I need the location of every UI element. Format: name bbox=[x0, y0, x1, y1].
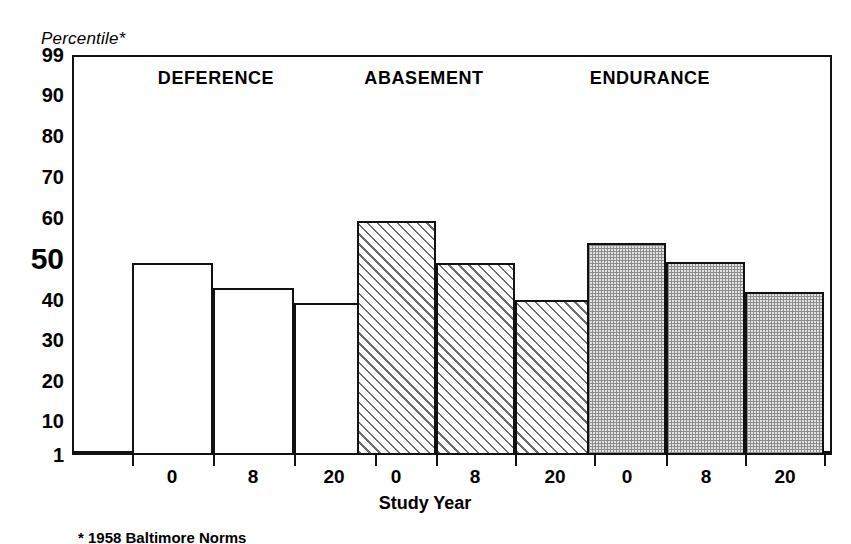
group-title-deference: DEFERENCE bbox=[158, 68, 274, 89]
x-tick-mark-8 bbox=[666, 455, 668, 466]
x-tick-mark-6 bbox=[515, 455, 517, 466]
x-tick-label-abasement-0: 0 bbox=[391, 466, 402, 488]
x-tick-label-abasement-8: 8 bbox=[470, 466, 481, 488]
y-tick-label-10: 10 bbox=[42, 411, 64, 431]
x-axis-title: Study Year bbox=[379, 493, 472, 514]
bar-abasement-year-0 bbox=[357, 221, 436, 455]
y-tick-label-50: 50 bbox=[31, 244, 64, 274]
y-axis-tick-labels: 99 90 80 70 60 50 40 30 20 10 1 bbox=[0, 0, 64, 544]
x-tick-mark-9 bbox=[745, 455, 747, 466]
x-tick-mark-7 bbox=[594, 455, 596, 466]
y-tick-label-20: 20 bbox=[42, 371, 64, 391]
x-tick-label-deference-8: 8 bbox=[248, 466, 259, 488]
bar-endurance-year-8 bbox=[666, 262, 745, 455]
chart-figure: Percentile* 99 90 80 70 60 50 40 30 20 1… bbox=[0, 0, 851, 544]
group-title-endurance: ENDURANCE bbox=[590, 68, 710, 89]
y-tick-label-1: 1 bbox=[53, 445, 64, 465]
bar-deference-year-0 bbox=[132, 263, 213, 455]
bar-endurance-year-20 bbox=[745, 292, 824, 455]
x-tick-mark-2 bbox=[213, 455, 215, 466]
x-tick-label-abasement-20: 20 bbox=[544, 466, 565, 488]
x-tick-mark-10 bbox=[824, 455, 826, 466]
y-tick-label-90: 90 bbox=[42, 85, 64, 105]
x-tick-label-deference-20: 20 bbox=[323, 466, 344, 488]
y-tick-label-99: 99 bbox=[42, 45, 64, 65]
x-tick-label-endurance-0: 0 bbox=[622, 466, 633, 488]
x-tick-label-endurance-8: 8 bbox=[701, 466, 712, 488]
bar-abasement-year-8 bbox=[436, 263, 515, 455]
y-tick-label-80: 80 bbox=[42, 126, 64, 146]
y-tick-label-40: 40 bbox=[42, 290, 64, 310]
bar-endurance-year-0 bbox=[587, 243, 666, 455]
x-tick-label-deference-0: 0 bbox=[167, 466, 178, 488]
y-tick-label-30: 30 bbox=[42, 330, 64, 350]
x-tick-mark-1 bbox=[132, 455, 134, 466]
group-title-abasement: ABASEMENT bbox=[364, 68, 483, 89]
x-tick-mark-3 bbox=[294, 455, 296, 466]
bar-abasement-year-20 bbox=[515, 300, 594, 455]
y-tick-label-60: 60 bbox=[42, 208, 64, 228]
bar-deference-year-8 bbox=[213, 288, 294, 455]
y-tick-label-70: 70 bbox=[42, 167, 64, 187]
x-tick-mark-5 bbox=[436, 455, 438, 466]
x-tick-label-endurance-20: 20 bbox=[774, 466, 795, 488]
chart-footnote: * 1958 Baltimore Norms bbox=[78, 529, 246, 544]
x-tick-mark-4 bbox=[375, 455, 377, 466]
